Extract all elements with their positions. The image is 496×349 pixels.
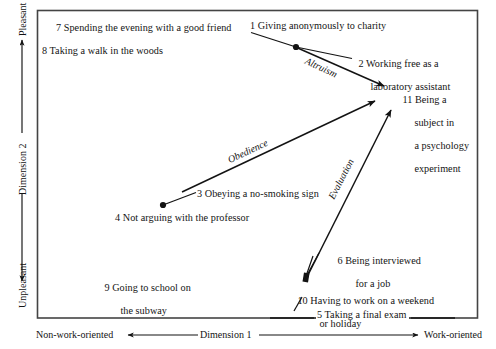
item-label-4: 4 Not arguing with the professor — [115, 212, 249, 224]
y-axis-pole-high: Pleasant — [17, 3, 28, 36]
item-label-7: 7 Spending the evening with a good frien… — [56, 22, 232, 34]
y-axis-pole-low: Unpleasant — [17, 263, 28, 308]
data-point-3-4 — [160, 202, 166, 208]
item-label-11-line3: a psychology — [402, 140, 469, 152]
item-label-6-line1: 6 Being interviewed — [337, 255, 421, 266]
item-label-5: 5 Taking a final exam — [317, 309, 407, 321]
data-point-1 — [293, 44, 299, 50]
item-label-8: 8 Taking a walk in the woods — [42, 45, 163, 57]
mds-scatter-figure: 7 Spending the evening with a good frien… — [0, 0, 496, 349]
x-axis-title: Dimension 1 — [200, 329, 251, 340]
leader-line-item-3 — [163, 193, 196, 206]
leader-line-item-10 — [305, 256, 313, 279]
item-label-11-line1: 11 Being a — [402, 94, 446, 105]
leader-line-item-6 — [306, 253, 320, 278]
leader-line-item-1 — [251, 33, 296, 48]
x-axis-pole-high: Work-oriented — [424, 329, 482, 340]
y-axis-title: Dimension 2 — [17, 144, 28, 195]
vector-label-evaluation: Evaluation — [326, 157, 356, 201]
item-label-3: 3 Obeying a no-smoking sign — [197, 188, 319, 200]
item-label-11-line4: experiment — [402, 163, 460, 175]
data-point-10 — [303, 273, 310, 283]
x-axis-pole-low: Non-work-oriented — [36, 329, 113, 340]
leader-line-item-2 — [296, 47, 352, 59]
item-label-1: 1 Giving anonymously to charity — [250, 20, 386, 32]
item-label-9: 9 Going to school on the subway — [94, 270, 191, 328]
item-label-9-line2: the subway — [104, 305, 167, 317]
item-label-2-line1: 2 Working free as a — [358, 58, 438, 69]
item-label-11: 11 Being a subject in a psychology exper… — [392, 82, 469, 186]
vector-label-obedience: Obedience — [226, 137, 269, 165]
item-label-11-line2: subject in — [402, 117, 454, 129]
item-label-9-line1: 9 Going to school on — [104, 282, 190, 293]
item-label-10-line1: 10 Having to work on a weekend — [297, 295, 434, 306]
vector-label-altruism: Altruism — [303, 55, 339, 80]
